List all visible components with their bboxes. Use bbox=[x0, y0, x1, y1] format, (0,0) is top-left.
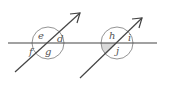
right-transversal bbox=[80, 18, 142, 78]
angle-diagram: e d f g h i j bbox=[0, 0, 173, 87]
angle-label-i: i bbox=[128, 32, 131, 43]
angle-label-j: j bbox=[114, 45, 119, 56]
angle-label-g: g bbox=[45, 46, 51, 57]
angle-label-h: h bbox=[109, 30, 115, 41]
angle-label-d: d bbox=[57, 33, 63, 44]
angle-label-e: e bbox=[38, 30, 44, 41]
